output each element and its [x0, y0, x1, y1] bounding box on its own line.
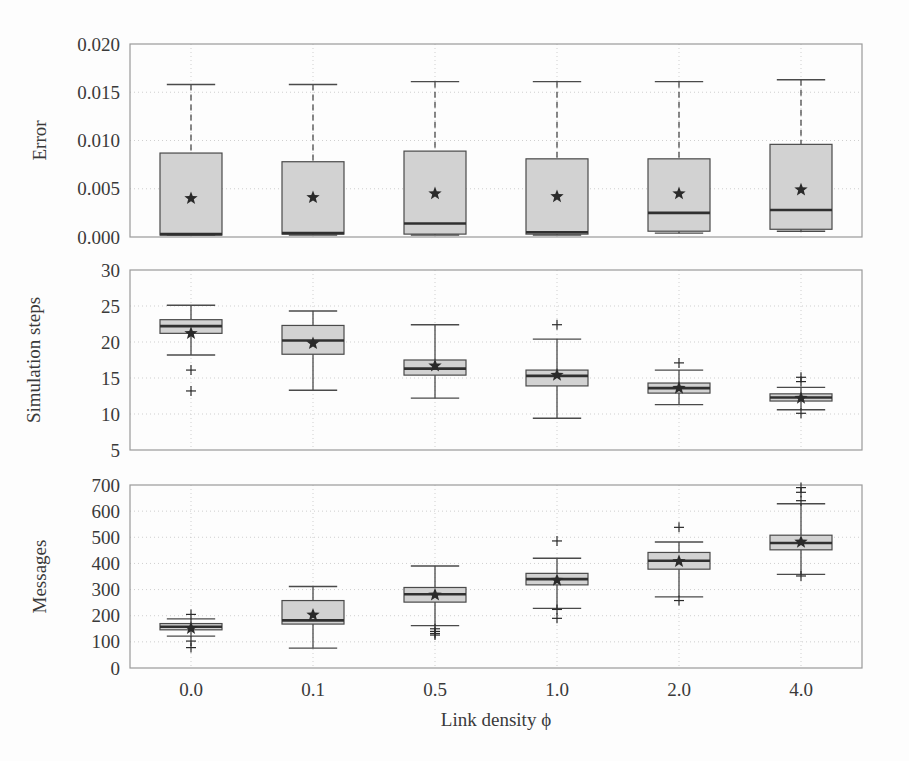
ytick-label: 0.005	[77, 178, 120, 199]
ytick-label: 0.000	[77, 227, 120, 248]
x-axis-title: Link density ϕ	[441, 709, 551, 730]
boxplot-figure: 0.0000.0050.0100.0150.020Error5101520253…	[0, 0, 909, 761]
ytick-label: 200	[92, 605, 121, 626]
xtick-label: 1.0	[545, 679, 569, 700]
ytick-label: 0.020	[77, 34, 120, 55]
ytick-label: 0.015	[77, 82, 120, 103]
ytick-label: 10	[101, 404, 120, 425]
ytick-label: 5	[111, 440, 121, 461]
ytick-label: 0	[111, 658, 121, 679]
box-group	[404, 82, 466, 235]
xtick-label: 0.1	[301, 679, 325, 700]
ytick-label: 600	[92, 501, 121, 522]
ytick-label: 15	[101, 368, 120, 389]
y-axis-title: Error	[29, 120, 50, 161]
ytick-label: 300	[92, 579, 121, 600]
ytick-label: 20	[101, 332, 120, 353]
y-axis-title: Messages	[29, 540, 50, 614]
ytick-label: 30	[101, 260, 120, 281]
panel-2: 51015202530Simulation steps	[23, 260, 862, 461]
panel-frame	[130, 44, 862, 237]
box-group	[770, 483, 832, 581]
ytick-label: 100	[92, 631, 121, 652]
box-group	[770, 372, 832, 418]
panel-1: 0.0000.0050.0100.0150.020Error	[29, 34, 862, 248]
ytick-label: 500	[92, 527, 121, 548]
box-group	[648, 82, 710, 234]
ytick-label: 0.010	[77, 130, 120, 151]
xtick-label: 2.0	[667, 679, 691, 700]
ytick-label: 25	[101, 296, 120, 317]
box-group	[282, 586, 344, 648]
box-group	[160, 85, 222, 236]
box-group	[648, 522, 710, 605]
figure-canvas: 0.0000.0050.0100.0150.020Error5101520253…	[0, 0, 909, 761]
box-group	[282, 85, 344, 236]
box-group	[404, 325, 466, 398]
box-group	[526, 82, 588, 235]
xtick-label: 0.0	[179, 679, 203, 700]
y-axis-title: Simulation steps	[23, 297, 44, 423]
box-group	[404, 566, 466, 640]
panel-frame	[130, 485, 862, 668]
ytick-label: 400	[92, 553, 121, 574]
panel-3: 0100200300400500600700Messages0.00.10.51…	[29, 475, 862, 731]
box-group	[160, 609, 222, 652]
panel-frame	[130, 270, 862, 450]
box-group	[770, 80, 832, 232]
box-group	[648, 358, 710, 405]
xtick-label: 0.5	[423, 679, 447, 700]
xtick-label: 4.0	[789, 679, 813, 700]
ytick-label: 700	[92, 475, 121, 496]
